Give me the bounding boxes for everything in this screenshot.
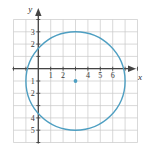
x-tick-label: 5 xyxy=(98,71,102,80)
x-tick-label: 1 xyxy=(49,71,53,80)
x-tick-label: 6 xyxy=(111,71,115,80)
x-tick-label: 2 xyxy=(61,71,65,80)
y-tick-label: 2 xyxy=(31,89,35,98)
y-tick-label: 3 xyxy=(31,28,35,37)
center-point-marker xyxy=(74,79,78,83)
circle-graph-figure: 12456321245 x y xyxy=(0,0,151,154)
y-tick-label: 2 xyxy=(31,40,35,49)
plot-points xyxy=(74,79,78,83)
x-axis-label: x xyxy=(137,72,142,82)
x-tick-label: 4 xyxy=(86,71,90,80)
coordinate-plane-svg: 12456321245 x y xyxy=(0,0,151,154)
y-tick-label: 5 xyxy=(31,126,35,135)
y-tick-label: 1 xyxy=(31,77,35,86)
y-tick-label: 4 xyxy=(31,114,35,123)
y-axis-label: y xyxy=(27,4,32,14)
